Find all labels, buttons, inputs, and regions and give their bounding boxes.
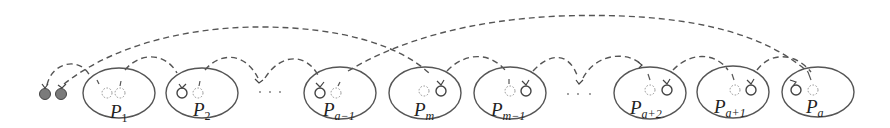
partition-pa-plus-2: Pa+2: [614, 62, 686, 121]
start-nodes: [40, 84, 67, 100]
arc-ellipsis-to-pa-plus-2: [583, 56, 641, 78]
partition-chain-diagram: P1 P2 Pa−1 Pm Pm−1: [0, 0, 890, 128]
arc-start-left: [47, 64, 90, 85]
long-arc-start-to-pa: [64, 27, 430, 84]
svg-text:Pa−1: Pa−1: [322, 99, 355, 123]
start-node-1: [40, 89, 51, 100]
partition-pa-plus-1: Pa+1: [697, 66, 769, 120]
svg-text:Pa+1: Pa+1: [713, 96, 746, 120]
arrowhead-icon: [42, 84, 48, 88]
arc-pm-minus-1-to-ellipsis: [533, 58, 578, 78]
arc-p1-to-p2: [125, 57, 177, 73]
svg-text:Pm: Pm: [413, 99, 435, 123]
arrowhead-icon: [58, 84, 66, 88]
ellipsis-1: [255, 79, 281, 93]
svg-text:Pa: Pa: [805, 96, 824, 120]
arc-p2-to-ellipsis: [205, 57, 258, 78]
partition-pa: Pa: [782, 67, 854, 120]
svg-text:P2: P2: [192, 99, 211, 123]
partition-pa-minus-1: Pa−1: [304, 67, 376, 123]
partition-pm: Pm: [389, 67, 461, 123]
start-node-2: [56, 89, 67, 100]
ellipsis-2: [567, 80, 591, 95]
arc-ellipsis-to-pa-minus-1: [265, 59, 318, 78]
partition-pm-minus-1: Pm−1: [474, 67, 546, 123]
partition-p2: P2: [166, 68, 238, 123]
svg-text:Pm−1: Pm−1: [490, 99, 525, 123]
svg-text:Pa+2: Pa+2: [629, 97, 662, 121]
partition-p1: P1: [83, 68, 155, 125]
svg-text:P1: P1: [109, 101, 128, 125]
